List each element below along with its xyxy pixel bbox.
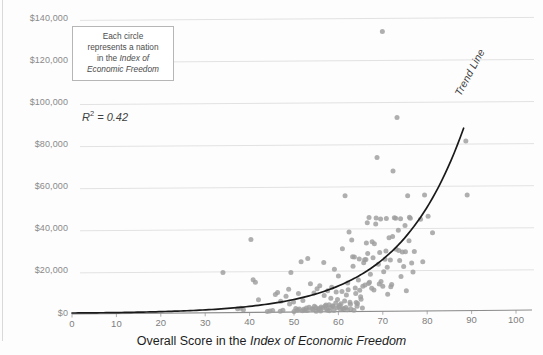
data-point xyxy=(353,286,358,291)
data-point xyxy=(340,246,345,251)
data-point xyxy=(321,260,326,265)
data-point xyxy=(365,220,370,225)
data-point xyxy=(336,274,341,279)
x-tick-label: 90 xyxy=(456,314,488,325)
x-tick-label: 50 xyxy=(278,316,310,327)
y-tick-label: $0 xyxy=(6,308,68,318)
data-point xyxy=(220,270,225,275)
data-point xyxy=(404,288,409,293)
data-point xyxy=(384,216,389,221)
r-squared-value: = 0.42 xyxy=(94,111,128,123)
data-point xyxy=(381,269,386,274)
x-tick-label: 100 xyxy=(500,314,532,325)
data-point xyxy=(365,251,370,256)
gridline xyxy=(80,144,534,147)
data-point xyxy=(465,193,470,198)
y-tick-label: $140,000 xyxy=(6,13,68,23)
data-point xyxy=(347,229,352,234)
data-point xyxy=(265,309,270,314)
data-point xyxy=(331,308,336,313)
data-point xyxy=(398,216,403,221)
annotation-line-1: Each circle xyxy=(76,31,170,42)
data-point xyxy=(336,304,341,309)
data-point xyxy=(377,282,382,287)
data-point xyxy=(377,250,382,255)
data-point xyxy=(327,308,332,313)
data-point xyxy=(335,297,340,302)
data-point xyxy=(403,223,408,228)
data-point xyxy=(308,281,313,286)
data-point xyxy=(355,301,360,306)
data-point xyxy=(357,257,362,262)
data-point xyxy=(388,258,393,263)
data-point xyxy=(390,234,395,239)
data-point xyxy=(385,292,390,297)
data-point xyxy=(346,287,351,292)
y-tick-label: $80,000 xyxy=(6,139,68,149)
x-axis-title-italic: Index of Economic Freedom xyxy=(250,334,406,348)
data-point xyxy=(391,168,396,173)
data-point xyxy=(284,294,289,299)
data-point xyxy=(328,296,333,301)
scatter-chart: $0$20,000$40,000$60,000$80,000$100,000$1… xyxy=(0,0,543,355)
data-point xyxy=(343,305,348,310)
data-point xyxy=(405,193,410,198)
data-point xyxy=(347,300,352,305)
data-point xyxy=(305,308,310,313)
data-point xyxy=(256,297,261,302)
data-point xyxy=(412,249,417,254)
data-point xyxy=(357,288,362,293)
data-point xyxy=(317,306,322,311)
gridline xyxy=(80,102,534,105)
data-point xyxy=(353,291,358,296)
data-point xyxy=(288,270,293,275)
data-point xyxy=(305,256,310,261)
data-point xyxy=(371,255,376,260)
data-point xyxy=(299,259,304,264)
data-point xyxy=(371,287,376,292)
data-point xyxy=(358,294,363,299)
x-tick-label: 0 xyxy=(56,318,88,329)
trend-line-curve xyxy=(72,128,464,313)
data-point xyxy=(350,254,355,259)
data-point xyxy=(378,217,383,222)
data-point xyxy=(463,139,468,144)
gridline xyxy=(80,186,534,189)
annotation-line-3-italic: Index of xyxy=(120,53,150,63)
data-point xyxy=(287,302,292,307)
data-point xyxy=(407,215,412,220)
data-point xyxy=(363,257,368,262)
data-point xyxy=(397,258,402,263)
data-point xyxy=(348,307,353,312)
data-point xyxy=(409,261,414,266)
annotation-line-4: Economic Freedom xyxy=(76,64,170,75)
data-point xyxy=(349,237,354,242)
gridline xyxy=(80,17,534,20)
data-point xyxy=(367,215,372,220)
data-point xyxy=(396,248,401,253)
data-point xyxy=(403,249,408,254)
data-point xyxy=(330,303,335,308)
data-point xyxy=(388,284,393,289)
x-axis-title: Overall Score in the Index of Economic F… xyxy=(0,334,543,348)
data-point xyxy=(373,221,378,226)
data-point xyxy=(248,237,253,242)
data-point xyxy=(374,216,379,221)
x-axis-title-prefix: Overall Score in the xyxy=(137,334,250,348)
data-point xyxy=(375,155,380,160)
data-point xyxy=(280,308,285,313)
data-point xyxy=(317,283,322,288)
x-tick-label: 10 xyxy=(100,318,132,329)
data-point xyxy=(275,290,280,295)
x-tick-label: 60 xyxy=(322,316,354,327)
annotation-line-3-prefix: in the xyxy=(97,53,120,63)
data-point xyxy=(383,249,388,254)
y-tick-label: $120,000 xyxy=(6,55,68,65)
y-tick-label: $100,000 xyxy=(6,97,68,107)
annotation-line-2: represents a nation xyxy=(76,42,170,53)
data-point xyxy=(296,291,301,296)
data-point xyxy=(286,287,291,292)
data-point xyxy=(360,306,365,311)
data-point xyxy=(385,265,390,270)
data-point xyxy=(332,267,337,272)
